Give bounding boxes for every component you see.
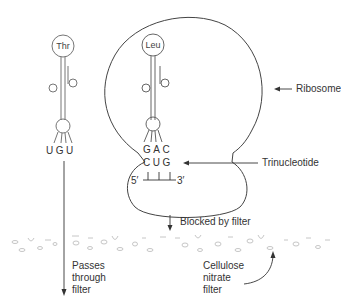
ribosome-label: Ribosome [296, 83, 341, 95]
three-prime-label: 3′ [177, 175, 184, 187]
filter-texture [12, 235, 330, 252]
trinucleotide-label: Trinucleotide [262, 157, 319, 169]
filter-label: Cellulose nitrate filter [203, 260, 247, 296]
filter-arrow [244, 256, 273, 284]
trna-leu-icon [142, 34, 169, 142]
trna-thr-icon [49, 35, 77, 143]
trinucleotide-arrowhead [183, 161, 189, 166]
five-prime-label: 5′ [131, 175, 138, 187]
codon-trinucleotide: CUG [143, 157, 173, 168]
trinucleotide-backbone [143, 172, 176, 180]
anticodon-leu: GAC [143, 144, 172, 155]
amino-acid-leu: Leu [141, 40, 165, 50]
blocked-arrowhead [168, 225, 173, 231]
amino-acid-thr: Thr [51, 41, 75, 51]
anticodon-thr: UGU [46, 145, 76, 156]
passes-label: Passes through filter [72, 260, 114, 296]
passes-arrowhead [62, 289, 67, 296]
ribosome-outline [105, 17, 262, 217]
filter-arrowhead [271, 251, 276, 258]
ribosome-arrowhead [274, 87, 280, 92]
blocked-label: Blocked by filter [180, 216, 251, 228]
